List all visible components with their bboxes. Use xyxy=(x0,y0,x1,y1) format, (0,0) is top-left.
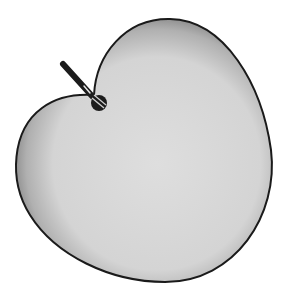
cardioid-lobe xyxy=(16,19,272,282)
cardioid-pattern-diagram xyxy=(0,0,289,290)
